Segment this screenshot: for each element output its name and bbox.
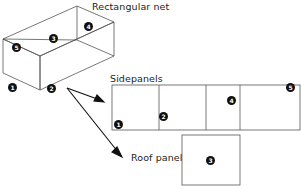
box-face-3-marker: 3: [49, 34, 58, 43]
sidepanel-1-marker: 1: [114, 120, 123, 129]
box-face-1-marker: 1: [8, 83, 17, 92]
diagram-canvas: Rectangular net Sidepanels Roof panel 53…: [0, 0, 301, 189]
label-sidepanels: Sidepanels: [110, 74, 163, 84]
sidepanel-2-marker: 2: [159, 112, 168, 121]
box-edge-inner-back: [3, 39, 77, 40]
label-roof-panel: Roof panel: [131, 153, 183, 163]
sidepanel-5-marker: 5: [286, 83, 295, 92]
box-left-end-face: [3, 39, 40, 90]
box-edge-back-right: [77, 40, 114, 56]
box-face-2-marker: 2: [47, 84, 56, 93]
sidepanels-strip: [112, 85, 300, 130]
roofpanel-3-marker: 3: [206, 156, 215, 165]
sidepanel-4-marker: 4: [227, 96, 236, 105]
label-rectangular-net: Rectangular net: [92, 2, 169, 12]
box-face-5-marker: 5: [12, 43, 21, 52]
box-face-4-marker: 4: [84, 22, 93, 31]
